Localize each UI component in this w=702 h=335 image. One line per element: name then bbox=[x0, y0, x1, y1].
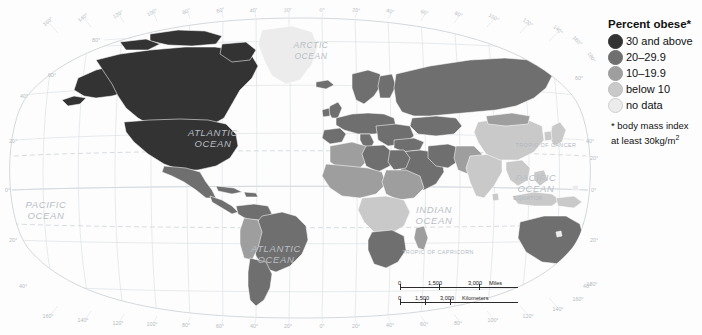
lon-bot-13: 100° bbox=[488, 317, 499, 323]
scale-label-km-mid: 1,500 bbox=[415, 295, 429, 301]
country-central-asia bbox=[410, 116, 462, 136]
lat-right-1: 40° bbox=[586, 138, 594, 144]
lon-top-3: 100° bbox=[146, 7, 158, 17]
legend-label-10-19: 10–19.9 bbox=[626, 67, 666, 80]
legend-swatch-10-19 bbox=[608, 66, 623, 81]
legend-item-30-and-above[interactable]: 30 and above bbox=[608, 34, 700, 49]
legend-title: Percent obese* bbox=[608, 18, 700, 30]
legend-item-no-data[interactable]: no data bbox=[608, 98, 700, 113]
lat-left-2: 40° bbox=[20, 93, 28, 99]
ocean-label-atlantic-n-1: ATLANTIC bbox=[187, 127, 238, 138]
legend-label-below-10: below 10 bbox=[626, 83, 670, 96]
lon-bot-1: 140° bbox=[78, 317, 89, 323]
legend-footnote-line2-text: at least 30kg/m bbox=[611, 135, 675, 146]
world-obesity-map-screenshot: TROPIC OF CANCER EQUATOR TROPIC OF CAPRI… bbox=[0, 0, 702, 335]
lon-bot-15: 140° bbox=[553, 306, 564, 312]
lat-left-0: 80° bbox=[92, 37, 100, 43]
ocean-label-arctic-2: OCEAN bbox=[294, 51, 327, 61]
scale-units-km: Kilometers bbox=[462, 295, 488, 301]
country-tasmania bbox=[566, 266, 578, 276]
lat-right-4: 20° bbox=[590, 237, 598, 243]
scale-label-km-end: 3,000 bbox=[440, 295, 454, 301]
lon-bot-5: 60° bbox=[216, 323, 224, 329]
lon-top-8: 0° bbox=[319, 7, 324, 13]
ocean-label-atlantic-s-1: ATLANTIC bbox=[250, 243, 301, 254]
ocean-label-arctic-1: ARCTIC bbox=[292, 40, 328, 50]
lon-top-11: 60° bbox=[420, 8, 430, 16]
scale-bar-km-line bbox=[400, 302, 518, 303]
lon-bot-3: 100° bbox=[147, 321, 158, 327]
island-pacific-1 bbox=[572, 185, 579, 191]
lon-bot-8: 0° bbox=[319, 323, 324, 329]
legend-swatch-no-data bbox=[608, 98, 623, 113]
legend-item-20-29[interactable]: 20–29.9 bbox=[608, 50, 700, 65]
lat-right-0: 60° bbox=[575, 75, 583, 81]
lon-top-13: 100° bbox=[488, 12, 501, 23]
label-tropic-of-cancer: TROPIC OF CANCER bbox=[516, 142, 577, 148]
legend-footnote: * body mass index at least 30kg/m2 bbox=[611, 120, 700, 146]
lat-left-1: 60° bbox=[48, 72, 56, 78]
lon-top-16: 160° bbox=[572, 35, 584, 47]
lon-top-9: 20° bbox=[352, 6, 361, 13]
scale-label-km-0: 0 bbox=[398, 295, 401, 301]
scale-units-miles: Miles bbox=[489, 280, 502, 286]
country-korea bbox=[544, 131, 552, 141]
ocean-label-atlantic-s-2: OCEAN bbox=[258, 254, 295, 265]
lon-bot-2: 120° bbox=[113, 320, 124, 326]
legend-swatch-below-10 bbox=[608, 82, 623, 97]
lon-bot-10: 40° bbox=[386, 322, 394, 328]
lon-bot-9: 20° bbox=[352, 323, 360, 329]
lat-left-3: 20° bbox=[9, 138, 17, 144]
legend-footnote-line2: at least 30kg/m2 bbox=[611, 132, 700, 147]
lat-left-4: 0° bbox=[5, 187, 10, 193]
legend-label-no-data: no data bbox=[626, 99, 663, 112]
legend-label-20-29: 20–29.9 bbox=[626, 51, 666, 64]
scale-bar-miles: 0 1,500 3,000 Miles bbox=[400, 281, 525, 292]
lon-bot-7: 20° bbox=[284, 323, 292, 329]
country-hispaniola bbox=[244, 192, 258, 197]
lat-right-2: 20° bbox=[590, 155, 598, 161]
scale-label-miles-0: 0 bbox=[398, 280, 401, 286]
scale-bar-miles-line bbox=[400, 287, 518, 288]
lon-top-1: 140° bbox=[77, 12, 89, 23]
ocean-label-pacific-w-1: PACIFIC bbox=[26, 199, 67, 210]
lon-bot-11: 60° bbox=[420, 321, 428, 327]
lon-top-2: 120° bbox=[112, 9, 124, 20]
lat-right-5: 40° bbox=[583, 283, 591, 289]
country-sri-lanka bbox=[492, 193, 499, 201]
ocean-label-indian-2: OCEAN bbox=[416, 215, 453, 226]
ocean-label-pacific-w-2: OCEAN bbox=[28, 210, 65, 221]
lon-bot-6: 40° bbox=[250, 323, 258, 329]
legend-footnote-line1: * body mass index bbox=[611, 120, 700, 132]
lat-left-6: 40° bbox=[19, 283, 27, 289]
lon-top-6: 40° bbox=[249, 6, 258, 13]
legend-item-10-19[interactable]: 10–19.9 bbox=[608, 66, 700, 81]
lon-top-4: 80° bbox=[181, 7, 191, 15]
label-equator: EQUATOR bbox=[513, 195, 542, 201]
lon-top-14: 120° bbox=[522, 17, 534, 28]
map-legend: Percent obese* 30 and above 20–29.9 10–1… bbox=[605, 18, 700, 146]
ocean-label-pacific-e-1: PACIFIC bbox=[516, 172, 557, 183]
scale-bar-kilometers: 0 1,500 3,000 Kilometers bbox=[400, 296, 525, 307]
lon-top-0: 160° bbox=[42, 16, 54, 28]
island-pacific-2 bbox=[556, 231, 562, 237]
legend-label-30-and-above: 30 and above bbox=[626, 35, 693, 48]
ocean-label-pacific-e-2: OCEAN bbox=[518, 183, 555, 194]
legend-swatch-20-29 bbox=[608, 50, 623, 65]
legend-footnote-superscript: 2 bbox=[675, 134, 679, 141]
lon-bot-12: 80° bbox=[454, 320, 462, 326]
lon-top-15: 140° bbox=[552, 24, 564, 36]
scale-label-miles-end: 3,000 bbox=[468, 280, 482, 286]
lon-top-7: 20° bbox=[284, 7, 293, 14]
lon-top-12: 80° bbox=[454, 10, 464, 19]
legend-swatch-30-and-above bbox=[608, 34, 623, 49]
legend-item-below-10[interactable]: below 10 bbox=[608, 82, 700, 97]
label-tropic-of-capricorn: TROPIC OF CAPRICORN bbox=[402, 249, 474, 255]
ocean-label-indian-1: INDIAN bbox=[416, 204, 452, 215]
lon-top-10: 40° bbox=[386, 7, 395, 15]
lon-bot-14: 120° bbox=[523, 313, 534, 319]
lon-bot-16: 160° bbox=[573, 296, 584, 302]
lat-right-3: 0° bbox=[591, 187, 596, 193]
lon-bot-0: 160° bbox=[43, 313, 54, 319]
scale-label-miles-mid: 1,500 bbox=[428, 280, 442, 286]
